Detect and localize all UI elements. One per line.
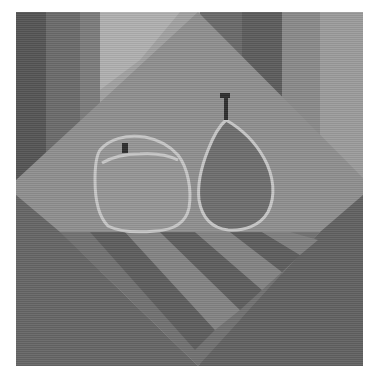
artwork-canvas — [16, 12, 363, 366]
scanline-texture — [16, 12, 363, 366]
still-life-artwork — [0, 0, 372, 381]
